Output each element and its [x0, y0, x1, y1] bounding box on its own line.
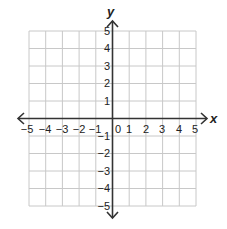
y-tick: −4: [97, 182, 110, 194]
x-tick: 5: [192, 123, 198, 135]
y-tick: 1: [104, 95, 110, 107]
x-tick: −5: [21, 123, 34, 135]
y-tick: −2: [97, 147, 110, 159]
y-tick: −5: [97, 200, 110, 212]
y-tick: 2: [104, 77, 110, 89]
y-tick: 5: [104, 25, 110, 37]
y-axis-label: y: [106, 4, 115, 19]
y-tick: −1: [97, 130, 110, 142]
x-axis-label: x: [209, 111, 218, 126]
y-tick: 3: [104, 60, 110, 72]
x-tick: 3: [159, 123, 165, 135]
coordinate-plane: x y −5 −4 −3 −2 −1 0 1 2 3 4 5 5 4 3 2 1…: [0, 0, 227, 229]
y-tick: −3: [97, 165, 110, 177]
x-tick: 4: [176, 123, 182, 135]
x-tick: −3: [56, 123, 69, 135]
y-tick: 4: [104, 42, 110, 54]
x-tick: −2: [73, 123, 86, 135]
x-tick: 1: [126, 123, 132, 135]
x-tick: −4: [39, 123, 52, 135]
x-tick: 2: [143, 123, 149, 135]
x-tick: 0: [115, 123, 121, 135]
